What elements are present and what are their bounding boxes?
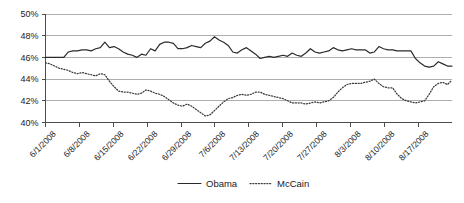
x-tick-label: 7/27/2008: [295, 129, 329, 163]
x-tick-label: 8/3/2008: [332, 129, 363, 160]
chart-legend: Obama McCain: [178, 178, 309, 189]
x-tick-label: 7/20/2008: [261, 129, 295, 163]
x-tick-label: 8/10/2008: [363, 129, 397, 163]
y-axis: [42, 14, 46, 123]
x-tick-label: 6/29/2008: [160, 129, 194, 163]
y-tick-marks: [42, 14, 46, 123]
y-tick-label: 40%: [20, 118, 38, 128]
poll-trend-chart: 50%48%46%44%42%40% 6/1/20086/8/20086/15/…: [0, 0, 464, 203]
x-tick-label: 6/8/2008: [61, 129, 92, 160]
gridlines: [46, 14, 453, 123]
y-tick-label: 46%: [20, 53, 38, 63]
y-tick-labels: 50%48%46%44%42%40%: [20, 9, 38, 128]
y-tick-label: 48%: [20, 31, 38, 41]
x-tick-label: 6/1/2008: [27, 129, 58, 160]
legend-label-mccain: McCain: [277, 178, 309, 189]
plot-series: [46, 37, 453, 116]
x-tick-label: 7/6/2008: [197, 129, 228, 160]
chart-canvas: 50%48%46%44%42%40% 6/1/20086/8/20086/15/…: [0, 0, 464, 203]
x-axis: [45, 123, 452, 127]
y-tick-label: 44%: [20, 74, 38, 84]
series-line-mccain: [46, 63, 453, 116]
x-tick-label: 6/22/2008: [126, 129, 160, 163]
legend-label-obama: Obama: [206, 178, 238, 189]
x-tick-labels: 6/1/20086/8/20086/15/20086/22/20086/29/2…: [27, 129, 430, 163]
y-tick-label: 50%: [20, 9, 38, 19]
y-tick-label: 42%: [20, 96, 38, 106]
x-tick-label: 6/15/2008: [92, 129, 126, 163]
x-tick-marks: [46, 123, 419, 127]
series-line-obama: [46, 37, 453, 67]
x-tick-label: 7/13/2008: [227, 129, 261, 163]
x-tick-label: 8/17/2008: [397, 129, 431, 163]
